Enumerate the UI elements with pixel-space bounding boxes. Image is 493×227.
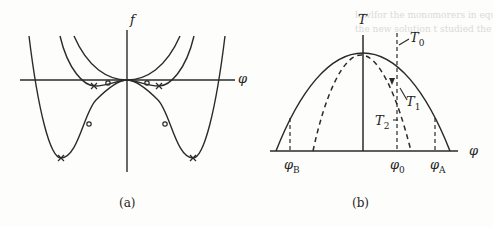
label-T1: T1 bbox=[406, 94, 420, 112]
T0-leader bbox=[399, 39, 409, 45]
panel-b-plot bbox=[270, 33, 458, 151]
label-phi-0: φ0 bbox=[390, 157, 405, 175]
panel-b-y-axis-label: T bbox=[358, 12, 367, 27]
quench-arrow-icon bbox=[389, 78, 395, 85]
label-phi-B: φB bbox=[284, 157, 300, 175]
panel-a-x-axis-label: φ bbox=[238, 71, 247, 86]
panel-b-caption: (b) bbox=[352, 196, 369, 210]
panel-a-y-axis-label: f bbox=[130, 12, 135, 27]
label-T0: T0 bbox=[410, 30, 424, 48]
panel-a-caption: (a) bbox=[119, 196, 136, 210]
label-phi-A: φA bbox=[430, 157, 446, 175]
panel-a-plot bbox=[20, 30, 235, 172]
spinodal-curve bbox=[313, 55, 411, 151]
inflection-circle-marker bbox=[87, 122, 91, 126]
panel-b-x-axis-label: φ bbox=[469, 143, 478, 158]
inflection-circle-marker bbox=[163, 122, 167, 126]
label-T2: T2 bbox=[375, 113, 389, 131]
